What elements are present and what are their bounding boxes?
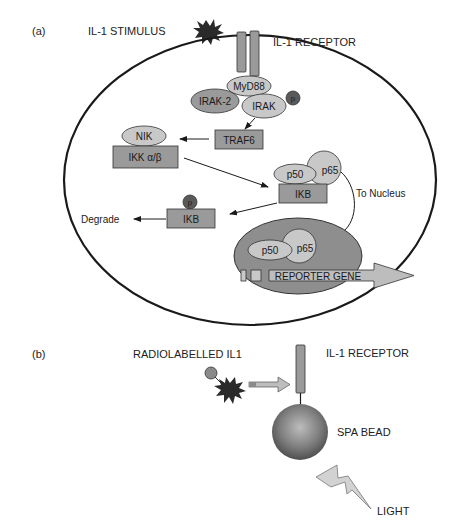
binding-arrow-tail <box>250 382 256 387</box>
spa-receptor <box>296 345 305 393</box>
degrade-label: Degrade <box>81 214 120 225</box>
irak-phospho-label: p <box>291 94 296 103</box>
p50-cyto-label: p50 <box>287 169 304 180</box>
p65-cyto-label: p65 <box>322 165 339 176</box>
ikb-phospho-label: p <box>188 198 193 207</box>
panel-b-receptor-label: IL-1 RECEPTOR <box>326 347 409 359</box>
panel-b-label: (b) <box>32 348 45 360</box>
promoter-element-2 <box>251 270 261 281</box>
il1-receptor-chain-1 <box>237 32 246 72</box>
ikk-to-ikb-arrow <box>184 158 268 187</box>
ikb-free-label: IKB <box>183 214 199 225</box>
irak2-label: IRAK-2 <box>199 96 232 107</box>
il1-receptor-label: IL-1 RECEPTOR <box>273 36 356 48</box>
traf6-label: TRAF6 <box>223 135 255 146</box>
panel-a-label: (a) <box>32 25 45 37</box>
nik-label: NIK <box>136 131 153 142</box>
reporter-gene-label: REPORTER GENE <box>275 271 362 282</box>
il1-signaling-diagram: (a) IL-1 STIMULUS IL-1 RECEPTOR IRAK-2 M… <box>0 0 452 527</box>
myd88-label: MyD88 <box>233 81 265 92</box>
p65-nuc-label: p65 <box>297 243 314 254</box>
light-label: LIGHT <box>377 505 410 517</box>
ikb-release-arrow <box>230 203 277 214</box>
ikb-complex-label: IKB <box>295 189 311 200</box>
ikk-label: IKK α/β <box>128 152 161 163</box>
il1-receptor-chain-2 <box>250 31 259 76</box>
p50-nuc-label: p50 <box>262 245 279 256</box>
spa-bead <box>272 404 328 460</box>
irak-to-traf6-arrow <box>245 118 255 129</box>
il1-stimulus-label: IL-1 STIMULUS <box>88 25 166 37</box>
spa-bead-label: SPA BEAD <box>337 426 391 438</box>
irak-label: IRAK <box>252 101 276 112</box>
to-nucleus-label: To Nucleus <box>356 188 405 199</box>
light-lightning-icon <box>316 465 371 509</box>
panel-a: (a) IL-1 STIMULUS IL-1 RECEPTOR IRAK-2 M… <box>32 19 436 325</box>
radiolabelled-il1-label: RADIOLABELLED IL1 <box>133 348 242 360</box>
promoter-element-1 <box>241 270 246 281</box>
panel-b: (b) RADIOLABELLED IL1 IL-1 RECEPTOR SPA … <box>32 345 410 517</box>
